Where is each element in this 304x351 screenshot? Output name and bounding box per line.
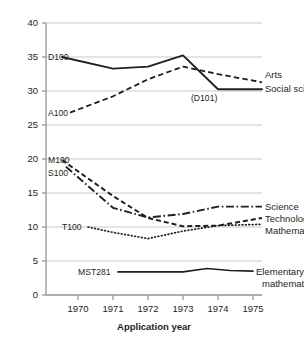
y-tick-label-15: 15 <box>27 187 38 198</box>
series-label-elementary-second-line: mathematics <box>262 278 304 289</box>
x-axis-title: Application year <box>117 321 191 332</box>
x-tick-label-1974: 1974 <box>207 303 228 314</box>
annotation-d100: D100 <box>48 52 69 62</box>
y-tick-label-10: 10 <box>27 221 38 232</box>
series-label-technology: Technology <box>265 213 304 224</box>
annotation-a100: A100 <box>48 108 68 118</box>
x-tick-label-1973: 1973 <box>172 303 193 314</box>
x-tick-label-1970: 1970 <box>67 303 88 314</box>
y-tick-label-20: 20 <box>27 153 38 164</box>
series-label-elementary: Elementary <box>256 266 304 277</box>
x-tick-label-1975: 1975 <box>242 303 263 314</box>
chart-canvas: 40 35 30 25 20 15 10 5 0 1970 1971 1972 … <box>0 0 304 351</box>
series-label-mathematics: Mathematics <box>265 225 304 236</box>
annotation-t100: T100 <box>62 222 82 232</box>
line-chart: 40 35 30 25 20 15 10 5 0 1970 1971 1972 … <box>0 0 304 351</box>
annotation-s100: S100 <box>48 168 68 178</box>
series-label-arts: Arts <box>265 69 282 80</box>
annotation-mst281: MST281 <box>78 267 111 277</box>
y-tick-label-25: 25 <box>27 119 38 130</box>
series-label-social-science: Social science <box>265 83 304 94</box>
chart-svg: 40 35 30 25 20 15 10 5 0 1970 1971 1972 … <box>0 0 304 351</box>
x-tick-label-1972: 1972 <box>137 303 158 314</box>
annotation-m100: M100 <box>48 155 70 165</box>
y-tick-label-40: 40 <box>27 17 38 28</box>
y-tick-label-30: 30 <box>27 85 38 96</box>
series-label-science: Science <box>265 201 299 212</box>
y-tick-label-35: 35 <box>27 51 38 62</box>
y-tick-label-0: 0 <box>33 289 38 300</box>
x-tick-label-1971: 1971 <box>102 303 123 314</box>
y-tick-label-5: 5 <box>33 255 38 266</box>
annotation-d101: (D101) <box>191 93 217 103</box>
